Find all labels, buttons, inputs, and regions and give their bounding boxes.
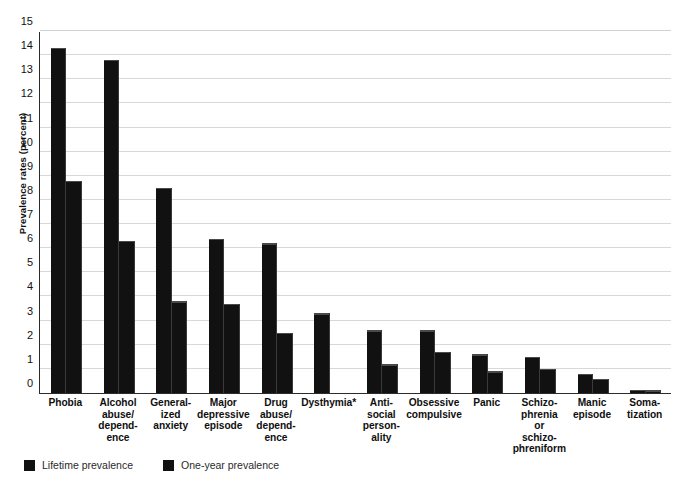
bar-group [630, 32, 661, 393]
bar-lifetime [630, 390, 646, 393]
y-tick-1: 1 [0, 353, 33, 364]
y-tick-0: 0 [0, 378, 33, 389]
legend-item-one-year: One-year prevalence [163, 459, 279, 471]
bar-one-year [382, 364, 398, 393]
category-label-line: compulsive [402, 409, 467, 421]
top-margin-band [0, 0, 680, 12]
legend-label: Lifetime prevalence [42, 459, 133, 471]
bar-lifetime [262, 243, 278, 393]
bar-series-container [40, 32, 671, 393]
category-label-line: phreniform [507, 443, 572, 455]
bar-lifetime [367, 330, 383, 393]
bar-lifetime [104, 60, 120, 393]
bar-group [209, 32, 240, 393]
bar-group [262, 32, 293, 393]
bar-group [578, 32, 609, 393]
bar-group [156, 32, 187, 393]
category-label-line: tization [612, 409, 677, 421]
bar-group [420, 32, 451, 393]
legend-swatch-lifetime [24, 460, 35, 471]
y-tick-13: 13 [0, 64, 33, 75]
category-label-line: ality [349, 432, 414, 444]
plot-area [39, 32, 671, 394]
bar-lifetime [314, 313, 330, 393]
bar-lifetime [525, 357, 541, 393]
chart-legend: Lifetime prevalenceOne-year prevalence [24, 457, 309, 473]
y-tick-2: 2 [0, 329, 33, 340]
bar-group [472, 32, 503, 393]
bar-one-year [435, 352, 451, 393]
category-label-line: schizo- [507, 432, 572, 444]
category-label-line: depend- [244, 420, 309, 432]
bar-one-year [277, 333, 293, 393]
category-label-line: person- [349, 420, 414, 432]
bar-group [51, 32, 82, 393]
y-tick-10: 10 [0, 136, 33, 147]
bar-one-year [593, 379, 609, 393]
bar-group [525, 32, 556, 393]
y-tick-9: 9 [0, 160, 33, 171]
category-label-line: ence [86, 432, 151, 444]
legend-item-lifetime: Lifetime prevalence [24, 459, 133, 471]
y-tick-4: 4 [0, 281, 33, 292]
category-label: Soma-tization [612, 397, 677, 420]
legend-swatch-oneyear [163, 460, 174, 471]
y-tick-14: 14 [0, 40, 33, 51]
y-tick-8: 8 [0, 184, 33, 195]
prevalence-bar-chart: Prevalence rates (percent) 0123456789101… [0, 0, 680, 480]
y-axis-tick-labels: 0123456789101112131415 [0, 32, 33, 394]
category-label-line: ence [244, 432, 309, 444]
y-tick-3: 3 [0, 305, 33, 316]
bar-lifetime [51, 48, 67, 393]
bar-one-year [540, 369, 556, 393]
bar-lifetime [472, 354, 488, 393]
y-tick-11: 11 [0, 112, 33, 123]
bar-one-year [119, 241, 135, 393]
bar-one-year [488, 371, 504, 393]
bar-one-year [172, 301, 188, 393]
bar-group [367, 32, 398, 393]
category-label-line: abuse/ [244, 409, 309, 421]
gridline-15 [40, 30, 671, 31]
legend-label: One-year prevalence [181, 459, 279, 471]
bar-one-year [66, 181, 82, 393]
y-tick-15: 15 [0, 16, 33, 27]
bar-one-year [224, 304, 240, 393]
x-axis-category-labels: PhobiaAlcoholabuse/depend-enceGeneral-iz… [39, 397, 671, 457]
y-tick-5: 5 [0, 257, 33, 268]
bar-group [314, 32, 345, 393]
bar-group [104, 32, 135, 393]
bar-lifetime [420, 330, 436, 393]
category-label-line: Soma- [612, 397, 677, 409]
y-tick-7: 7 [0, 209, 33, 220]
bar-lifetime [156, 188, 172, 393]
bar-lifetime [578, 374, 594, 393]
bar-one-year [646, 390, 662, 393]
category-label-line: or [507, 420, 572, 432]
bar-lifetime [209, 239, 225, 393]
y-tick-6: 6 [0, 233, 33, 244]
y-tick-12: 12 [0, 88, 33, 99]
